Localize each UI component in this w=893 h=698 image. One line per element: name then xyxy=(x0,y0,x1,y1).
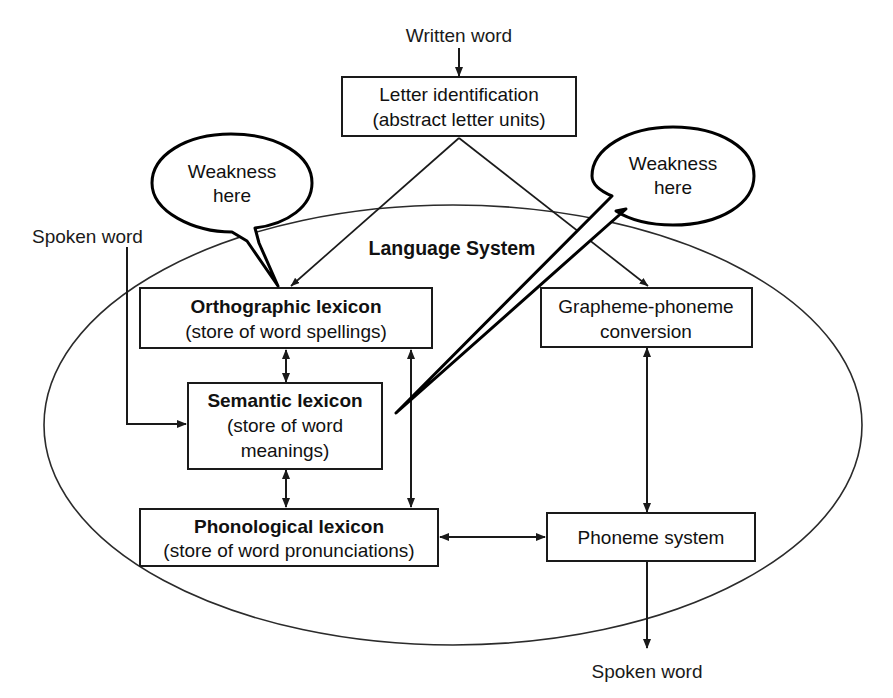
language-system-diagram: Letter identification (abstract letter u… xyxy=(0,0,893,698)
callout-left-line2: here xyxy=(213,185,251,206)
diagram-page: Letter identification (abstract letter u… xyxy=(0,0,893,698)
box-grapheme-phoneme-conversion: Grapheme-phoneme conversion xyxy=(541,288,752,347)
grapheme-phoneme-line1: Grapheme-phoneme xyxy=(558,296,733,317)
label-written-word: Written word xyxy=(406,25,512,46)
box-phoneme-system: Phoneme system xyxy=(547,513,755,561)
callout-right-line1: Weakness xyxy=(629,153,717,174)
orthographic-lexicon-line1: Orthographic lexicon xyxy=(190,296,381,317)
phonological-lexicon-line2: (store of word pronunciations) xyxy=(163,540,414,561)
grapheme-phoneme-line2: conversion xyxy=(600,321,692,342)
letter-identification-line2: (abstract letter units) xyxy=(372,109,545,130)
phonological-lexicon-line1: Phonological lexicon xyxy=(194,516,384,537)
box-letter-identification: Letter identification (abstract letter u… xyxy=(342,77,576,136)
connector-letter-id-to-orthographic xyxy=(291,138,459,286)
semantic-lexicon-line3: meanings) xyxy=(241,440,330,461)
language-system-label: Language System xyxy=(369,237,536,259)
semantic-lexicon-line1: Semantic lexicon xyxy=(207,390,362,411)
callout-right-line2: here xyxy=(654,177,692,198)
phoneme-system-line1: Phoneme system xyxy=(578,527,725,548)
callout-left-line1: Weakness xyxy=(188,161,276,182)
box-phonological-lexicon: Phonological lexicon (store of word pron… xyxy=(140,509,438,566)
label-spoken-word-output: Spoken word xyxy=(592,661,703,682)
box-orthographic-lexicon: Orthographic lexicon (store of word spel… xyxy=(140,288,432,348)
letter-identification-line1: Letter identification xyxy=(379,84,539,105)
callout-weakness-right: Weakness here xyxy=(396,127,754,413)
orthographic-lexicon-line2: (store of word spellings) xyxy=(185,321,387,342)
box-semantic-lexicon: Semantic lexicon (store of word meanings… xyxy=(188,383,382,469)
semantic-lexicon-line2: (store of word xyxy=(227,415,343,436)
label-spoken-word-input: Spoken word xyxy=(32,226,143,247)
